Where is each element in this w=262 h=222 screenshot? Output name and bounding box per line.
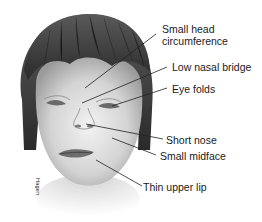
label-small-head-circumference: Small head circumference (162, 23, 228, 47)
label-line-1: Small head (162, 23, 228, 35)
label-small-midface: Small midface (160, 150, 226, 162)
label-low-nasal-bridge: Low nasal bridge (172, 61, 251, 73)
label-short-nose: Short nose (166, 134, 217, 146)
label-line-2: circumference (162, 35, 228, 47)
diagram-stage: Small head circumference Low nasal bridg… (0, 0, 262, 222)
label-thin-upper-lip: Thin upper lip (143, 181, 207, 193)
label-eye-folds: Eye folds (172, 83, 215, 95)
artist-signature: Hagen (35, 178, 41, 195)
face (36, 55, 143, 186)
